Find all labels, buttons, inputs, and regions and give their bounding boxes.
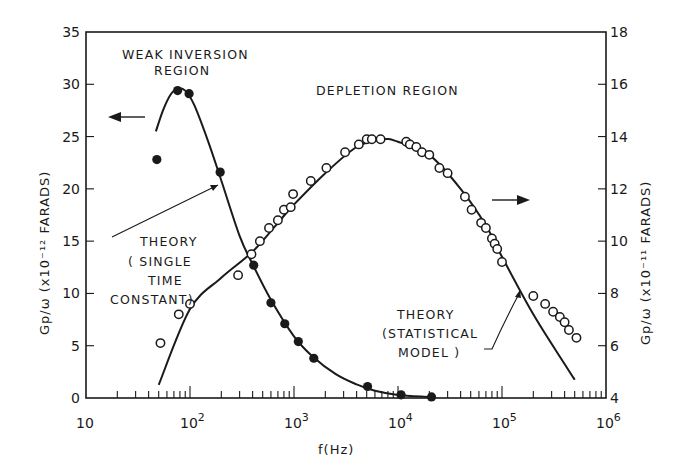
theory-single-leader [112, 185, 218, 237]
weak-inversion-data-point [427, 392, 436, 401]
weak-inversion-data-point [173, 86, 182, 95]
y-left-tick-label: 20 [62, 181, 80, 197]
depletion-data-point [529, 292, 537, 300]
depletion-data-point [307, 177, 315, 185]
y-right-tick-label: 8 [610, 285, 619, 301]
depletion-data-point [565, 326, 573, 334]
y-left-axis-title: Gp/ω (x10⁻¹² FARADS) [37, 171, 52, 335]
chart: 1010210310410510605101520253035468101214… [0, 0, 688, 471]
y-left-tick-label: 5 [71, 338, 80, 354]
depletion-region-label: DEPLETION REGION [316, 83, 459, 98]
x-axis-title: f(Hz) [318, 442, 354, 457]
depletion-data-point [443, 169, 451, 177]
y-right-tick-label: 10 [610, 233, 628, 249]
depletion-data-point [341, 148, 349, 156]
weak-inversion-data-point [294, 337, 303, 346]
depletion-data-point [175, 310, 183, 318]
x-tick-label: 106 [596, 411, 621, 431]
data-points [152, 86, 580, 402]
y-left-tick-label: 0 [71, 390, 80, 406]
depletion-data-point [376, 135, 384, 143]
theory-single-label-3: TIME [147, 273, 183, 288]
depletion-data-point [322, 164, 330, 172]
weak-inversion-data-point [266, 298, 275, 307]
depletion-data-point [289, 190, 297, 198]
theory-stat-label-1: THEORY [396, 307, 455, 322]
depletion-data-point [355, 140, 363, 148]
left-axis-arrow-icon [108, 112, 145, 122]
x-tick-label: 103 [284, 411, 309, 431]
depletion-data-point [572, 334, 580, 342]
weak-inversion-data-point [309, 354, 318, 363]
depletion-data-point [234, 271, 242, 279]
x-tick-label: 104 [388, 411, 413, 431]
weak-inversion-label-line1: WEAK INVERSION [122, 47, 249, 62]
y-right-tick-label: 18 [610, 24, 628, 40]
y-left-tick-label: 30 [62, 76, 80, 92]
y-left-tick-label: 15 [62, 233, 80, 249]
theory-stat-leader [484, 292, 520, 349]
y-right-tick-label: 14 [610, 129, 628, 145]
depletion-data-point [256, 237, 264, 245]
depletion-data-point [156, 339, 164, 347]
weak-inversion-data-point [152, 155, 161, 164]
y-right-tick-label: 4 [610, 390, 619, 406]
depletion-data-point [287, 203, 295, 211]
y-left-tick-label: 25 [62, 129, 80, 145]
x-tick-label: 105 [492, 411, 517, 431]
depletion-data-point [435, 164, 443, 172]
depletion-data-point [265, 224, 273, 232]
right-axis-arrow-icon [492, 195, 530, 205]
weak-inversion-label-line2: REGION [154, 63, 210, 78]
weak-inversion-data-point [249, 261, 258, 270]
theory-single-label-1: THEORY [139, 234, 198, 249]
y-left-tick-label: 35 [62, 24, 80, 40]
depletion-data-point [541, 300, 549, 308]
depletion-data-point [247, 250, 255, 258]
x-tick-label: 10 [76, 415, 94, 431]
depletion-data-point [498, 258, 506, 266]
theory-single-label-2: ( SINGLE [128, 254, 192, 269]
weak-inversion-data-point [280, 319, 289, 328]
depletion-data-point [482, 224, 490, 232]
depletion-data-point [425, 151, 433, 159]
depletion-data-point [461, 193, 469, 201]
y-right-tick-label: 16 [610, 76, 628, 92]
theory-stat-label-2: (STATISTICAL [382, 326, 478, 341]
y-left-tick-label: 10 [62, 285, 80, 301]
depletion-data-point [493, 245, 501, 253]
weak-inversion-data-point [184, 89, 193, 98]
depletion-data-point [368, 135, 376, 143]
weak-inversion-data-point [396, 390, 405, 399]
depletion-data-point [467, 206, 475, 214]
theory-stat-label-3: MODEL ) [398, 345, 460, 360]
y-right-tick-label: 12 [610, 181, 628, 197]
theory-stat-leader-arrowhead [515, 290, 521, 298]
weak-inversion-data-point [363, 382, 372, 391]
depletion-data-point [560, 318, 568, 326]
y-right-axis-title: Gp/ω (x10⁻¹¹ FARADS) [638, 181, 653, 345]
weak-inversion-data-point [216, 168, 225, 177]
depletion-data-point [274, 216, 282, 224]
theory-single-label-4: CONSTANT) [110, 292, 194, 307]
x-tick-label: 102 [180, 411, 205, 431]
y-right-tick-label: 6 [610, 338, 619, 354]
